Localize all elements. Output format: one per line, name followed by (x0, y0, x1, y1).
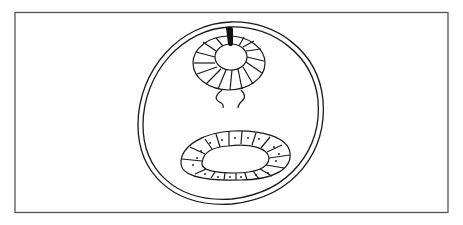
cross-section-diagram (0, 0, 463, 225)
gut-cell-nuclei (192, 137, 280, 178)
ventral-stalk (216, 90, 244, 108)
